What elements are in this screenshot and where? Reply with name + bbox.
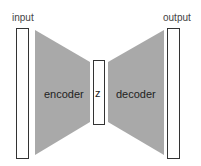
decoder-label: decoder bbox=[116, 88, 156, 100]
autoencoder-diagram bbox=[0, 0, 201, 166]
output-label: output bbox=[163, 12, 191, 23]
input-label: input bbox=[12, 12, 34, 23]
input-box bbox=[17, 29, 29, 159]
latent-z-label: z bbox=[95, 87, 101, 99]
encoder-label: encoder bbox=[44, 88, 84, 100]
output-box bbox=[168, 29, 180, 159]
